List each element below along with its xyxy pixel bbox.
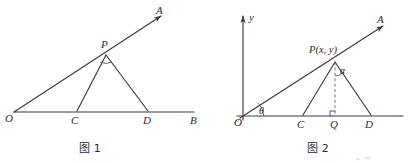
figure2-caption: 图 2 — [307, 142, 329, 155]
figure2-label-y-axis: y — [248, 11, 254, 23]
figure1-label-D: D — [142, 114, 151, 126]
figure2-label-Q: Q — [330, 118, 338, 130]
figure2-label-origin: O — [234, 116, 242, 128]
figure2-segment-PC — [303, 62, 335, 115]
figure2-label-A: A — [376, 13, 384, 25]
figure1-segment-PD — [106, 55, 148, 111]
scan-artifact — [356, 157, 371, 160]
figure1-label-origin: O — [5, 112, 13, 124]
figure2-right-angle-mark-at-Q — [330, 111, 335, 116]
figure1-label-C: C — [71, 114, 79, 126]
figure-1-group: O A P C D B 图 1 — [5, 4, 197, 155]
figure2-label-D: D — [364, 118, 373, 130]
figure2-label-theta: θ — [259, 105, 264, 116]
figure2-label-C: C — [297, 118, 305, 130]
figure1-caption: 图 1 — [79, 142, 101, 155]
figure2-label-P: P(x, y) — [308, 44, 337, 56]
figure1-label-B: B — [190, 114, 197, 126]
figure-2-group: O y A P(x, y) C Q D θ α 图 2 — [234, 11, 403, 155]
figure1-segment-PC — [77, 55, 106, 111]
figure1-label-A: A — [155, 4, 163, 16]
diagram-canvas: O A P C D B 图 1 — [0, 0, 413, 163]
figure2-label-alpha: α — [340, 66, 346, 76]
geometry-figure-pair: O A P C D B 图 1 — [0, 0, 413, 163]
figure1-ray-OA — [14, 16, 161, 112]
figure1-label-P: P — [100, 38, 108, 50]
